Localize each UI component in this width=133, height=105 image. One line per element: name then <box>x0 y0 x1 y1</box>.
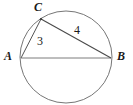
side-length-label-ac: 3 <box>37 35 43 47</box>
side-length-label-cb: 4 <box>74 24 80 36</box>
vertex-point-c <box>40 18 42 20</box>
geometry-figure: C A B 3 4 <box>0 0 133 105</box>
geometry-canvas <box>0 0 133 105</box>
vertex-label-b: B <box>117 50 125 62</box>
vertex-label-a: A <box>4 50 12 62</box>
vertex-label-c: C <box>34 1 42 13</box>
circumscribed-circle <box>20 11 112 103</box>
